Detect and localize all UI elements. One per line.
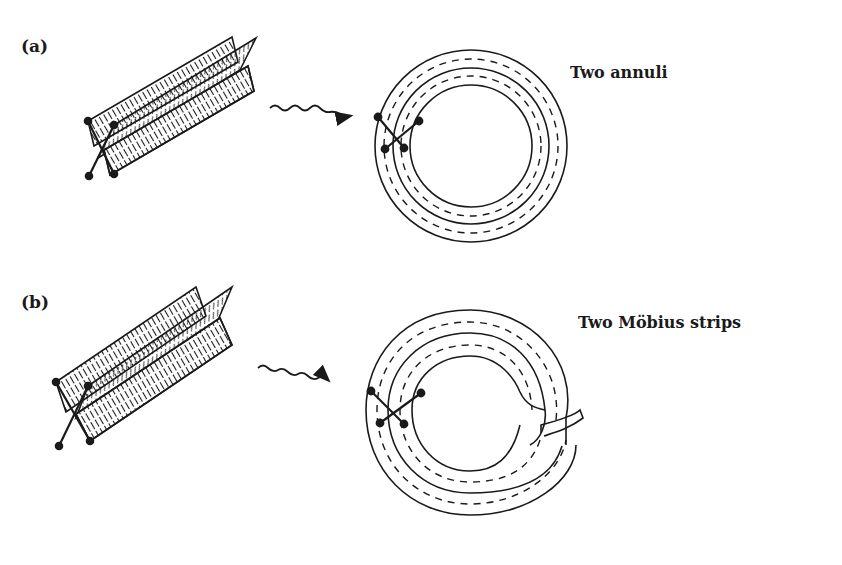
panel-a-annulus-crossing xyxy=(375,114,423,153)
diagram-canvas xyxy=(0,0,842,565)
panel-a-two-annuli xyxy=(375,50,567,242)
panel-b-two-mobius-strips xyxy=(366,310,583,515)
panel-b-wavy-arrow-icon xyxy=(258,366,328,381)
panel-b-mobius-crossing xyxy=(368,388,425,428)
panel-a-wavy-arrow-icon xyxy=(270,106,350,117)
panel-a-crossed-strips xyxy=(85,37,257,180)
panel-b-crossed-strips xyxy=(53,287,233,450)
